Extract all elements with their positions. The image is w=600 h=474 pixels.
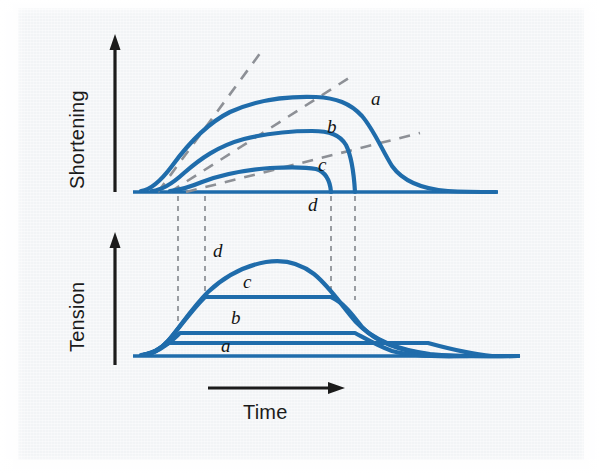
tangent-line-c [186, 133, 420, 192]
tension-label-d: d [213, 240, 223, 261]
time-axis: Time [208, 382, 345, 423]
shortening-curve-c [170, 167, 331, 192]
physiology-chart: a b c d Shortening [0, 0, 600, 474]
figure-root: a b c d Shortening [0, 0, 600, 474]
shortening-axis-arrow [110, 34, 121, 192]
panel-tension: d c b a Tension [66, 232, 520, 365]
panel-connectors [178, 196, 355, 333]
shortening-axis-label: Shortening [66, 90, 88, 189]
shortening-label-c: c [318, 154, 327, 175]
time-axis-arrowhead [328, 382, 345, 394]
shortening-label-a: a [371, 88, 381, 109]
tension-curve-c [143, 297, 518, 356]
time-axis-label: Time [243, 401, 288, 423]
tangent-lines-group [158, 48, 420, 192]
tension-label-a: a [221, 335, 231, 356]
tension-axis-arrow [110, 232, 121, 365]
tension-label-b: b [231, 307, 241, 328]
tension-label-c: c [243, 271, 252, 292]
shortening-label-d: d [308, 194, 318, 215]
panel-shortening: a b c d Shortening [66, 34, 498, 215]
tension-axis-label: Tension [66, 282, 88, 352]
shortening-label-b: b [327, 116, 337, 137]
